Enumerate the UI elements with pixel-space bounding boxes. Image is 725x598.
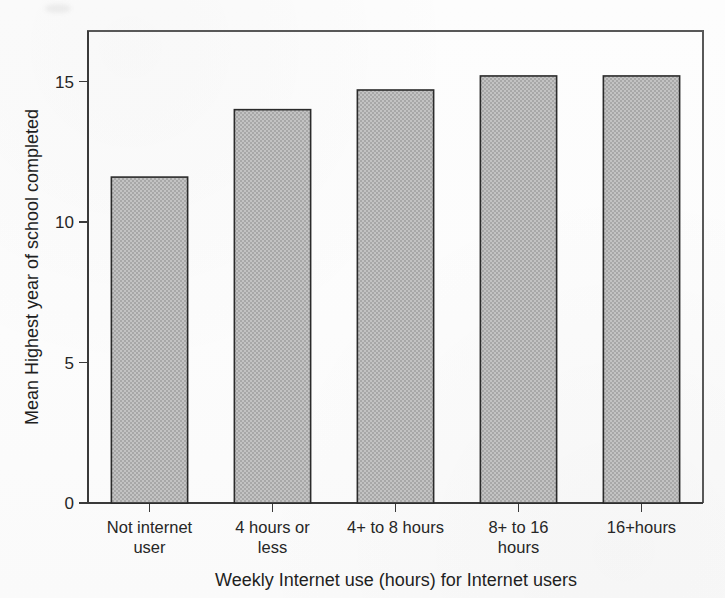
y-tick-label: 15: [55, 73, 74, 92]
x-tick-label: Not internet: [107, 518, 193, 536]
x-axis: [88, 503, 703, 512]
bar-series: [111, 76, 679, 503]
x-axis-title: Weekly Internet use (hours) for Internet…: [215, 570, 577, 590]
x-tick-label: 8+ to 16: [488, 518, 548, 536]
y-tick-labels: 051015: [55, 73, 74, 513]
y-axis: [79, 31, 88, 503]
x-tick-label: 4+ to 8 hours: [347, 518, 444, 536]
y-tick-label: 5: [65, 354, 74, 373]
x-tick-label: user: [133, 538, 166, 556]
y-axis-title: Mean Highest year of school completed: [22, 109, 42, 425]
bar: [603, 76, 679, 503]
bar: [234, 110, 310, 503]
bar: [480, 76, 556, 503]
y-tick-label: 0: [65, 494, 74, 513]
x-tick-label: 16+hours: [607, 518, 676, 536]
y-tick-label: 10: [55, 213, 74, 232]
chart-figure: Not internetuser4 hours orless4+ to 8 ho…: [0, 0, 725, 598]
x-tick-label: less: [258, 538, 287, 556]
x-tick-labels: Not internetuser4 hours orless4+ to 8 ho…: [107, 518, 676, 556]
x-tick-label: hours: [498, 538, 539, 556]
bar: [111, 177, 187, 503]
x-tick-label: 4 hours or: [235, 518, 310, 536]
bar: [357, 90, 433, 503]
bar-chart: Not internetuser4 hours orless4+ to 8 ho…: [0, 0, 725, 598]
